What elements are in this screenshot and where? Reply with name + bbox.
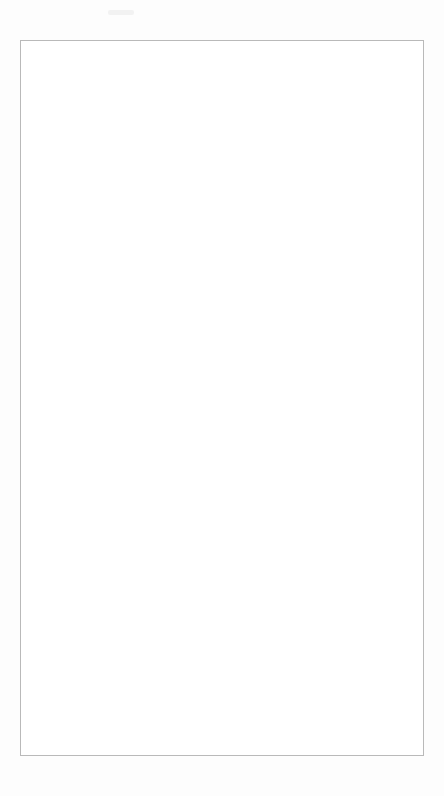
- scanned-page: Ratio of Corticosteroid to Bronchodilato…: [0, 0, 444, 796]
- rotated-chart-container: Ratio of Corticosteroid to Bronchodilato…: [20, 40, 424, 756]
- chart-frame: [20, 40, 424, 756]
- scan-artifact: [108, 10, 134, 15]
